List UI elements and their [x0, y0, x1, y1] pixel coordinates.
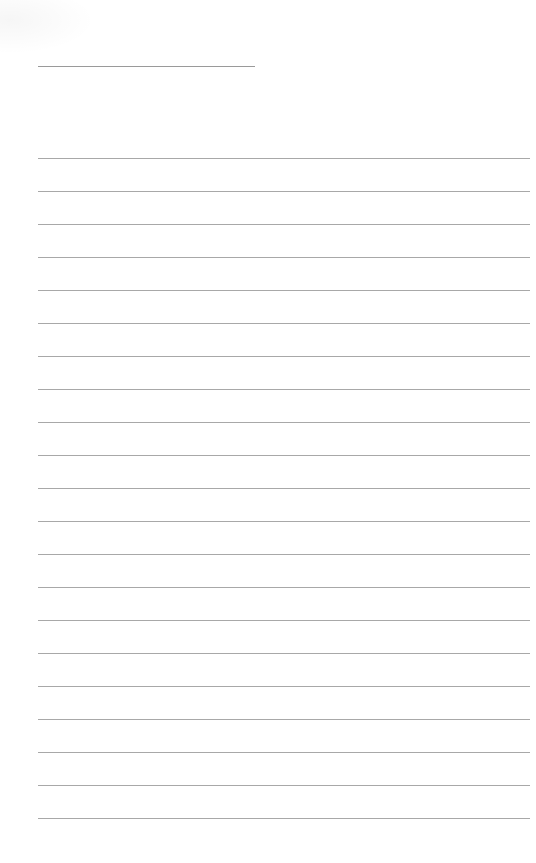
- ruled-line: [38, 290, 530, 291]
- ruled-line: [38, 686, 530, 687]
- ruled-line: [38, 191, 530, 192]
- ruled-line: [38, 719, 530, 720]
- ruled-line: [38, 455, 530, 456]
- ruled-line: [38, 620, 530, 621]
- ruled-line: [38, 224, 530, 225]
- ruled-line: [38, 587, 530, 588]
- ruled-line: [38, 389, 530, 390]
- lined-page: [0, 0, 536, 863]
- paper-bleed-through: [0, 0, 110, 60]
- ruled-line: [38, 488, 530, 489]
- ruled-line: [38, 158, 530, 159]
- ruled-line: [38, 785, 530, 786]
- ruled-line: [38, 422, 530, 423]
- ruled-line: [38, 554, 530, 555]
- ruled-line: [38, 752, 530, 753]
- ruled-line: [38, 653, 530, 654]
- ruled-line: [38, 323, 530, 324]
- header-line: [38, 66, 255, 67]
- ruled-line: [38, 257, 530, 258]
- ruled-line: [38, 356, 530, 357]
- ruled-line: [38, 521, 530, 522]
- ruled-line: [38, 818, 530, 819]
